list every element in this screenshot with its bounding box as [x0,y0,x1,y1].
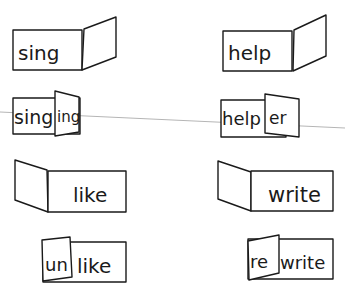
word-sing: sing [14,106,53,128]
word-fold-diagram: sing sing ing help help er like un like … [0,0,345,293]
word-write: write [268,183,321,207]
card-help-folded: help er [221,94,299,137]
card-help-open: help [223,15,326,71]
card-sing-open: sing [13,17,116,70]
card-write-open: write [218,161,333,211]
card-flap-panel [82,17,116,70]
word-like: like [77,254,111,278]
card-flap-panel [15,160,48,212]
card-flap-panel [218,161,251,211]
prefix-re: re [250,251,268,272]
prefix-un: un [45,254,68,275]
suffix-er: er [269,108,286,128]
word-sing: sing [18,41,59,65]
card-write-folded: re write [248,235,333,280]
suffix-ing: ing [57,108,80,126]
card-sing-folded: sing ing [13,91,80,136]
card-like-open: like [15,160,126,212]
card-like-folded: un like [42,237,126,282]
card-flap-panel [293,15,326,71]
word-help: help [228,41,271,65]
word-like: like [73,183,107,207]
word-write: write [280,252,325,273]
word-help: help [222,108,261,129]
